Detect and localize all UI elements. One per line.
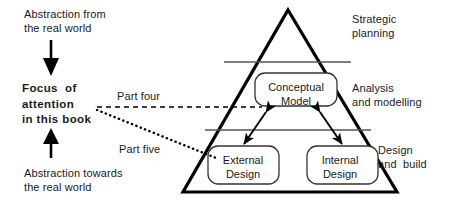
label-abstraction-from-real-world: Abstraction from the real world <box>24 7 106 35</box>
up-arrow-head <box>43 128 59 144</box>
label-analysis-and-modelling: Analysis and modelling <box>352 81 422 109</box>
label-focus-of-attention: Focus of attention in this book <box>22 81 91 128</box>
label-part-four: Part four <box>117 89 160 103</box>
down-arrow-head <box>43 58 59 76</box>
up-arrow <box>43 128 59 158</box>
label-strategic-planning: Strategic planning <box>352 12 396 40</box>
internal-design-label: Internal Design <box>312 153 368 181</box>
external-design-label: External Design <box>213 153 273 181</box>
down-arrow <box>43 40 59 76</box>
conceptual-model-label: Conceptual Model <box>260 80 332 108</box>
label-part-five: Part five <box>119 142 160 156</box>
label-design-and-build: Design and build <box>378 143 427 171</box>
label-abstraction-towards-real-world: Abstraction towards the real world <box>24 166 123 194</box>
abstraction-pyramid-diagram: Abstraction from the real world Focus of… <box>0 0 463 208</box>
